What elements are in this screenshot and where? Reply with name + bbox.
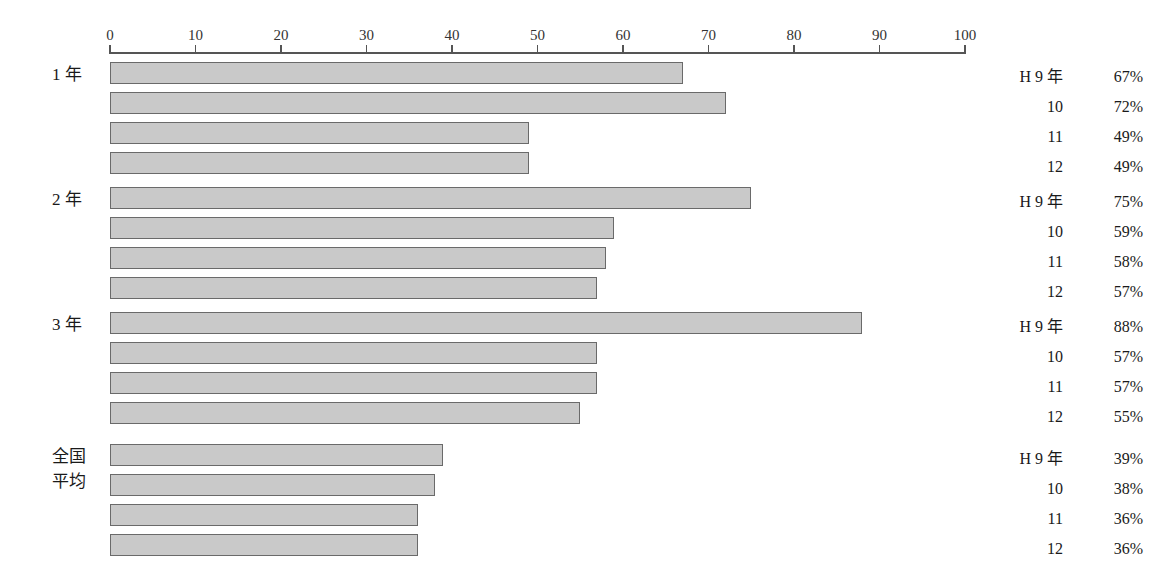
- x-axis-tick: [109, 45, 111, 54]
- group-value-table: H 9 年67%1072%1149%1249%: [985, 62, 1155, 182]
- value-table-value: 36%: [1081, 504, 1143, 534]
- bar-group: 3 年H 9 年88%1057%1157%1255%: [0, 312, 1158, 432]
- value-table-row: 1255%: [985, 402, 1155, 432]
- group-value-table: H 9 年75%1059%1158%1257%: [985, 187, 1155, 307]
- bar-group: 1 年H 9 年67%1072%1149%1249%: [0, 62, 1158, 182]
- group-label: 全国平均: [52, 444, 104, 494]
- value-table-row: 1257%: [985, 277, 1155, 307]
- value-table-value: 57%: [1081, 342, 1143, 372]
- bar: [110, 312, 862, 334]
- bar: [110, 342, 597, 364]
- value-table-value: 75%: [1081, 187, 1143, 217]
- x-axis-tick: [280, 45, 282, 54]
- x-axis-tick: [366, 45, 368, 54]
- value-table-year: H 9 年: [985, 187, 1063, 217]
- x-axis-tick-label: 0: [106, 28, 114, 43]
- group-label-line: 3 年: [52, 312, 104, 337]
- bar: [110, 474, 435, 496]
- bar: [110, 534, 418, 556]
- value-table-year: 12: [985, 152, 1063, 182]
- x-axis-tick: [622, 45, 624, 54]
- value-table-value: 55%: [1081, 402, 1143, 432]
- value-table-row: 1236%: [985, 534, 1155, 564]
- value-table-value: 49%: [1081, 122, 1143, 152]
- value-table-row: 1249%: [985, 152, 1155, 182]
- value-table-row: 1072%: [985, 92, 1155, 122]
- value-table-year: 10: [985, 342, 1063, 372]
- value-table-row: H 9 年67%: [985, 62, 1155, 92]
- group-label: 3 年: [52, 312, 104, 337]
- value-table-row: H 9 年75%: [985, 187, 1155, 217]
- bar-group: 全国平均H 9 年39%1038%1136%1236%: [0, 444, 1158, 564]
- bar: [110, 504, 418, 526]
- x-axis-tick-label: 10: [188, 28, 203, 43]
- value-table-row: H 9 年39%: [985, 444, 1155, 474]
- bar: [110, 444, 443, 466]
- bar: [110, 217, 614, 239]
- value-table-year: 11: [985, 247, 1063, 277]
- bar: [110, 92, 726, 114]
- x-axis-tick: [537, 45, 539, 54]
- x-axis-tick: [879, 45, 881, 54]
- value-table-value: 36%: [1081, 534, 1143, 564]
- value-table-value: 57%: [1081, 372, 1143, 402]
- value-table-value: 88%: [1081, 312, 1143, 342]
- value-table-year: 10: [985, 474, 1063, 504]
- value-table-value: 67%: [1081, 62, 1143, 92]
- value-table-value: 38%: [1081, 474, 1143, 504]
- bar: [110, 152, 529, 174]
- bar: [110, 62, 683, 84]
- bar: [110, 187, 751, 209]
- x-axis-tick-label: 100: [954, 28, 977, 43]
- bar: [110, 402, 580, 424]
- group-label-line: 2 年: [52, 187, 104, 212]
- bar-chart: 0102030405060708090100 1 年H 9 年67%1072%1…: [0, 0, 1158, 586]
- bar: [110, 122, 529, 144]
- x-axis-tick-label: 70: [701, 28, 716, 43]
- x-axis-tick: [964, 45, 966, 54]
- value-table-row: 1038%: [985, 474, 1155, 504]
- value-table-value: 57%: [1081, 277, 1143, 307]
- value-table-row: H 9 年88%: [985, 312, 1155, 342]
- value-table-row: 1057%: [985, 342, 1155, 372]
- value-table-year: 12: [985, 534, 1063, 564]
- value-table-year: 11: [985, 504, 1063, 534]
- value-table-year: 12: [985, 402, 1063, 432]
- group-label-line: 全国: [52, 444, 104, 469]
- value-table-year: H 9 年: [985, 444, 1063, 474]
- group-value-table: H 9 年39%1038%1136%1236%: [985, 444, 1155, 564]
- x-axis-tick-label: 50: [530, 28, 545, 43]
- x-axis-tick: [708, 45, 710, 54]
- value-table-row: 1149%: [985, 122, 1155, 152]
- group-label: 1 年: [52, 62, 104, 87]
- bar: [110, 247, 606, 269]
- x-axis-tick-label: 20: [274, 28, 289, 43]
- x-axis-tick: [451, 45, 453, 54]
- value-table-year: 10: [985, 217, 1063, 247]
- value-table-value: 59%: [1081, 217, 1143, 247]
- value-table-value: 39%: [1081, 444, 1143, 474]
- value-table-year: 11: [985, 372, 1063, 402]
- value-table-value: 49%: [1081, 152, 1143, 182]
- value-table-row: 1157%: [985, 372, 1155, 402]
- value-table-year: H 9 年: [985, 62, 1063, 92]
- x-axis: 0102030405060708090100: [110, 52, 965, 54]
- value-table-year: 10: [985, 92, 1063, 122]
- x-axis-tick-label: 40: [445, 28, 460, 43]
- x-axis-tick-label: 60: [616, 28, 631, 43]
- value-table-year: 12: [985, 277, 1063, 307]
- group-value-table: H 9 年88%1057%1157%1255%: [985, 312, 1155, 432]
- bar: [110, 372, 597, 394]
- group-label: 2 年: [52, 187, 104, 212]
- group-label-line: 1 年: [52, 62, 104, 87]
- value-table-value: 72%: [1081, 92, 1143, 122]
- value-table-row: 1136%: [985, 504, 1155, 534]
- value-table-year: H 9 年: [985, 312, 1063, 342]
- group-label-line: 平均: [52, 469, 104, 494]
- value-table-year: 11: [985, 122, 1063, 152]
- x-axis-tick-label: 80: [787, 28, 802, 43]
- value-table-row: 1158%: [985, 247, 1155, 277]
- bar-group: 2 年H 9 年75%1059%1158%1257%: [0, 187, 1158, 307]
- x-axis-tick: [793, 45, 795, 54]
- bar: [110, 277, 597, 299]
